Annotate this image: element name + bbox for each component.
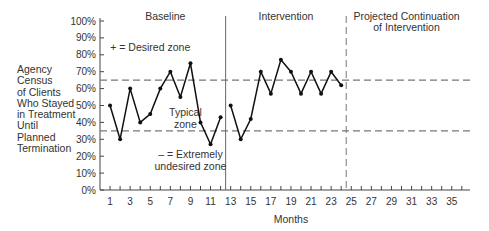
data-point (249, 117, 253, 121)
annotation-text: undesired zone (155, 160, 227, 172)
series-line-baseline (110, 63, 221, 144)
data-point (209, 142, 213, 146)
annotation-text: Typical (169, 106, 202, 118)
y-tick-label: 70% (76, 66, 96, 77)
y-tick-label: 50% (76, 100, 96, 111)
data-point (289, 70, 293, 74)
data-point (168, 70, 172, 74)
data-point (178, 95, 182, 99)
data-point (339, 83, 343, 87)
y-tick-label: 40% (76, 117, 96, 128)
annotation-text: + = Desired zone (110, 41, 190, 53)
x-tick-label: 5 (147, 196, 153, 207)
annotation-text: zone (174, 118, 197, 130)
data-point (259, 70, 263, 74)
data-point (188, 61, 192, 65)
annotation-text: – = Extremely (158, 148, 223, 160)
data-point (299, 92, 303, 96)
data-point (108, 104, 112, 108)
data-point (148, 112, 152, 116)
data-point (128, 87, 132, 91)
x-tick-label: 15 (245, 196, 257, 207)
y-tick-label: 90% (76, 32, 96, 43)
y-tick-label: 10% (76, 168, 96, 179)
data-point (199, 120, 203, 124)
y-tick-label: 100% (70, 16, 96, 27)
y-tick-label: 60% (76, 83, 96, 94)
x-tick-label: 1 (107, 196, 113, 207)
y-tick-label: 20% (76, 151, 96, 162)
x-tick-label: 31 (406, 196, 418, 207)
data-point (229, 104, 233, 108)
y-tick-label: 30% (76, 134, 96, 145)
data-point (309, 70, 313, 74)
x-tick-label: 7 (168, 196, 174, 207)
x-tick-label: 13 (225, 196, 237, 207)
data-point (239, 137, 243, 141)
x-tick-label: 27 (366, 196, 378, 207)
x-tick-label: 35 (446, 196, 458, 207)
data-point (279, 58, 283, 62)
x-tick-label: 33 (426, 196, 438, 207)
x-tick-label: 25 (346, 196, 358, 207)
x-tick-label: 21 (305, 196, 317, 207)
y-tick-label: 80% (76, 49, 96, 60)
x-tick-label: 29 (386, 196, 398, 207)
line-chart: 0%10%20%30%40%50%60%70%80%90%100%1357911… (0, 0, 489, 231)
series-line-intervention (231, 60, 342, 139)
data-point (319, 92, 323, 96)
data-point (118, 137, 122, 141)
data-point (269, 92, 273, 96)
data-point (158, 87, 162, 91)
phase-label: of Intervention (373, 21, 440, 33)
y-tick-label: 0% (82, 185, 97, 196)
phase-label: Baseline (145, 10, 185, 22)
data-point (219, 115, 223, 119)
x-tick-label: 23 (326, 196, 338, 207)
phase-label: Intervention (258, 10, 313, 22)
x-tick-label: 9 (188, 196, 194, 207)
x-tick-label: 11 (205, 196, 216, 207)
data-point (329, 70, 333, 74)
x-tick-label: 17 (265, 196, 277, 207)
x-axis-label: Months (274, 213, 308, 225)
x-tick-label: 19 (285, 196, 297, 207)
data-point (138, 120, 142, 124)
x-tick-label: 3 (127, 196, 133, 207)
